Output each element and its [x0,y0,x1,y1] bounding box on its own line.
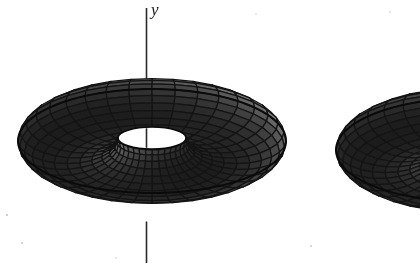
y-axis-label: y [151,1,159,18]
figure-root: y [0,0,420,267]
torus-figure-canvas [0,0,420,267]
